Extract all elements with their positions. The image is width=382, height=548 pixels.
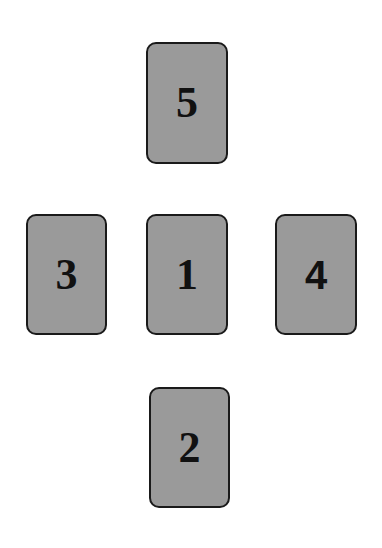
card-spread-diagram: 5 3 1 4 2: [0, 0, 382, 548]
card-number-label: 5: [176, 81, 198, 125]
card-number-label: 2: [179, 426, 201, 470]
card-1-center: 1: [146, 214, 228, 335]
card-3-left: 3: [26, 214, 107, 335]
card-number-label: 3: [56, 253, 78, 297]
card-4-right: 4: [275, 214, 357, 335]
card-number-label: 1: [176, 253, 198, 297]
card-5-top: 5: [146, 42, 228, 164]
card-number-label: 4: [305, 255, 327, 295]
card-2-bottom: 2: [149, 387, 230, 508]
